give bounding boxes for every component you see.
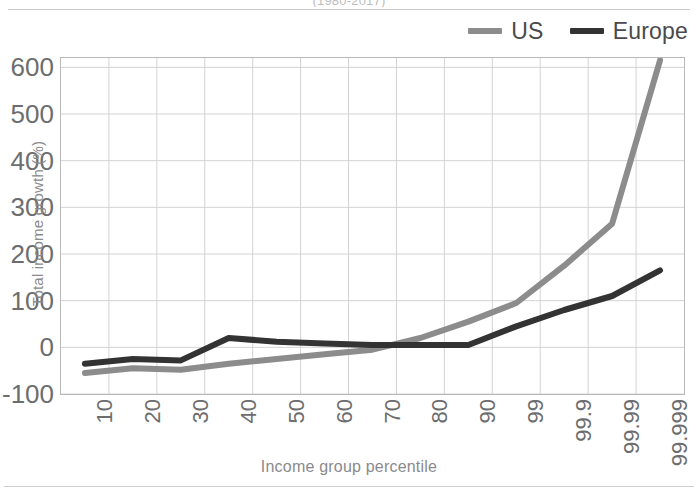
x-tick-label: 50 [286,399,308,423]
x-tick-label: 99.99 [621,399,643,454]
x-tick-label: 99.999 [669,399,691,466]
x-tick-label: 70 [382,399,404,423]
x-tick-label: 10 [94,399,116,423]
x-axis-label: Income group percentile [0,458,698,476]
x-tick-label: 30 [190,399,212,423]
x-tick-label: 20 [142,399,164,423]
x-tick-label: 40 [238,399,260,423]
x-tick-label: 99.9 [573,399,595,442]
x-axis-ticks: 1020304050607080909999.999.9999.999 [0,0,698,495]
x-tick-label: 90 [477,399,499,423]
x-tick-label: 99 [525,399,547,423]
x-tick-label: 60 [334,399,356,423]
chart-figure: (1980-2017) USEurope 6005004003002001000… [0,0,698,495]
x-tick-label: 80 [429,399,451,423]
